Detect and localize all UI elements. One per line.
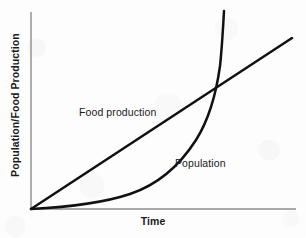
plot-area	[0, 0, 306, 238]
series-line-food-production	[31, 38, 292, 209]
y-axis-label: Population/Food Production	[0, 0, 30, 210]
y-axis-label-text: Population/Food Production	[9, 33, 21, 177]
malthus-growth-chart: Population/Food Production Time Food pro…	[0, 0, 306, 238]
x-axis-label-text: Time	[0, 216, 306, 227]
series-label-food-production: Food production	[79, 107, 156, 118]
series-label-population: Population	[175, 158, 226, 169]
